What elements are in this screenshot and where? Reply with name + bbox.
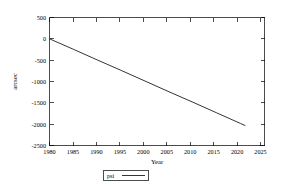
y-tick-label: 500 bbox=[37, 14, 46, 21]
x-tick-label: 2020 bbox=[231, 148, 243, 155]
x-axis-title: Year bbox=[151, 158, 164, 165]
y-tick-label: -500 bbox=[35, 57, 46, 64]
x-axis-tick-labels: 1980 1985 1990 1995 2000 2005 2010 2015 … bbox=[43, 148, 266, 155]
x-axis-ticks bbox=[50, 18, 261, 146]
x-tick-label: 2010 bbox=[184, 148, 196, 155]
y-axis-tick-labels: 500 0 -500 -1000 -1500 -2000 -2500 bbox=[32, 14, 46, 149]
x-tick-label: 2005 bbox=[161, 148, 173, 155]
y-tick-label: 0 bbox=[43, 35, 46, 42]
data-series-psi bbox=[50, 39, 246, 126]
y-tick-label: -2000 bbox=[32, 121, 46, 128]
x-tick-label: 1995 bbox=[114, 148, 126, 155]
x-tick-label: 2000 bbox=[137, 148, 149, 155]
chart-container: 500 0 -500 -1000 -1500 -2000 -2500 bbox=[0, 0, 286, 188]
x-tick-label: 1990 bbox=[90, 148, 102, 155]
legend: psi bbox=[104, 171, 149, 181]
legend-entry-label: psi bbox=[107, 172, 115, 179]
x-tick-label: 1980 bbox=[43, 148, 55, 155]
y-axis-ticks bbox=[50, 18, 265, 146]
y-axis-title: arcsec bbox=[11, 73, 18, 90]
y-tick-label: -1500 bbox=[32, 99, 46, 106]
x-tick-label: 2025 bbox=[254, 148, 266, 155]
y-tick-label: -1000 bbox=[32, 78, 46, 85]
plot-frame bbox=[50, 18, 265, 146]
x-tick-label: 1985 bbox=[67, 148, 79, 155]
x-tick-label: 2015 bbox=[208, 148, 220, 155]
line-chart: 500 0 -500 -1000 -1500 -2000 -2500 bbox=[0, 0, 286, 188]
